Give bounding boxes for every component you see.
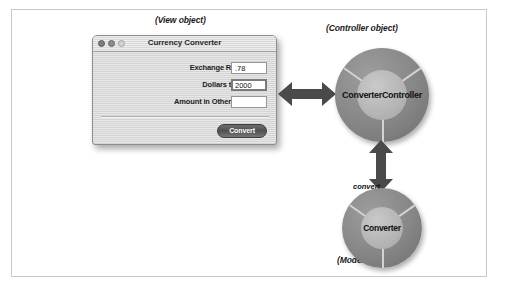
amount-other-currency-input[interactable] — [231, 96, 267, 108]
controller-object: ConverterController — [335, 48, 429, 142]
window-titlebar[interactable]: Currency Converter — [93, 36, 276, 52]
model-hub: Converter — [361, 207, 403, 249]
dollars-to-convert-input[interactable]: 2000 — [231, 79, 267, 91]
controller-hub: ConverterController — [357, 70, 407, 120]
window-title: Currency Converter — [93, 38, 276, 47]
currency-converter-window: Currency Converter Exchange Rate per $1:… — [92, 35, 277, 145]
form-row-amount-other-currency: Amount in Other Currency: — [103, 96, 267, 108]
caption-controller-object: (Controller object) — [326, 23, 398, 33]
model-object: Converter — [342, 188, 422, 268]
controller-name: ConverterController — [317, 90, 447, 100]
caption-view-object: (View object) — [155, 15, 206, 25]
model-name: Converter — [363, 223, 400, 233]
figure-frame: (View object) (Controller object) (Model… — [11, 9, 487, 277]
form-divider — [101, 116, 269, 118]
form-row-exchange-rate: Exchange Rate per $1: .78 — [103, 62, 267, 74]
convert-button[interactable]: Convert — [217, 124, 267, 138]
exchange-rate-input[interactable]: .78 — [231, 62, 267, 74]
form-row-dollars-to-convert: Dollars to Convert: 2000 — [103, 79, 267, 91]
